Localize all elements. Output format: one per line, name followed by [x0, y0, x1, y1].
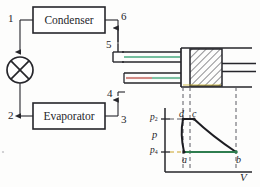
state-point-6: 6 [121, 11, 127, 22]
state-point-5: 5 [106, 39, 112, 50]
pv-label-p-axis: p [152, 130, 157, 141]
evaporator-label: Evaporator [33, 103, 105, 129]
pv-label-p-high: p2 [150, 113, 158, 123]
scan-speck [2, 151, 4, 153]
pv-point-label-b: b [236, 155, 241, 165]
state-point-2: 2 [8, 110, 14, 121]
pv-point-label-a: a [182, 155, 187, 165]
condenser-label: Condenser [33, 7, 105, 33]
state-point-1: 1 [8, 13, 14, 24]
piston-block [190, 49, 222, 86]
figure-root: Condenser Evaporator 1 2 3 4 5 6 p2 p p4… [0, 0, 260, 187]
pv-point-label-c: c [192, 109, 196, 119]
pv-point-label-d: d [179, 109, 184, 119]
pv-label-p-low: p4 [150, 146, 158, 156]
state-point-3: 3 [121, 114, 127, 125]
pv-process-c-to-b [194, 119, 236, 152]
pv-label-volume-axis: V [240, 172, 247, 183]
state-point-4: 4 [107, 88, 113, 99]
pv-label-p-low-sub: 4 [155, 149, 158, 155]
pv-process-a-to-d [182, 119, 184, 152]
pv-label-p-high-sub: 2 [155, 116, 158, 122]
